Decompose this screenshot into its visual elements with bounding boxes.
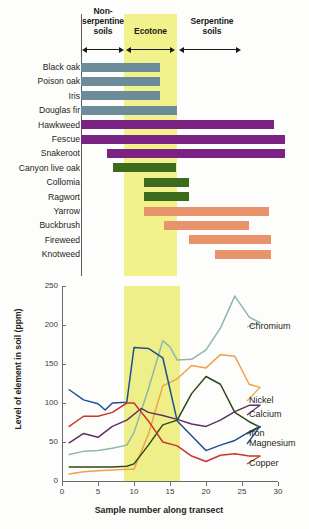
species-label: Knotweed: [4, 248, 80, 260]
species-row: Ragwort: [0, 191, 309, 203]
species-range-bar: [81, 77, 160, 86]
species-label: Fescue: [4, 133, 80, 145]
species-range-bar: [144, 178, 189, 187]
species-label: Ragwort: [4, 191, 80, 203]
species-range-bar: [81, 63, 160, 72]
series-label-nickel: Nickel: [249, 395, 274, 405]
zone-label-non-serpentine: Non-serpentinesoils: [81, 6, 125, 36]
species-row: Douglas fir: [0, 104, 309, 116]
species-range-bar: [164, 221, 249, 230]
species-row: Snakeroot: [0, 147, 309, 159]
species-label: Fireweed: [4, 234, 80, 246]
species-row: Fescue: [0, 133, 309, 145]
species-range-bar: [113, 163, 176, 172]
species-row: Knotweed: [0, 248, 309, 260]
line-series-magnesium: [69, 348, 260, 451]
series-label-magnesium: Magnesium: [249, 438, 296, 448]
series-label-copper: Copper: [249, 458, 279, 468]
species-row: Canyon live oak: [0, 162, 309, 174]
figure-root: Non-serpentinesoils Ecotone Serpentineso…: [0, 0, 309, 529]
species-range-bar: [81, 135, 285, 144]
line-series-chromium: [69, 296, 260, 454]
series-label-chromium: Chromium: [249, 321, 291, 331]
y-axis-label: Level of element in soil (ppm): [13, 299, 23, 439]
species-label: Collomia: [4, 176, 80, 188]
species-row: Poison oak: [0, 75, 309, 87]
species-distribution-chart: Non-serpentinesoils Ecotone Serpentineso…: [0, 0, 309, 276]
species-label: Douglas fir: [4, 104, 80, 116]
species-range-bar: [189, 235, 271, 244]
line-series-copper: [69, 403, 260, 462]
species-row: Black oak: [0, 61, 309, 73]
species-label: Buckbrush: [4, 219, 80, 231]
zone-label-serpentine: Serpentinesoils: [177, 16, 247, 36]
species-range-bar: [215, 250, 270, 259]
zone-label-ecotone: Ecotone: [124, 26, 177, 36]
element-levels-chart: 050100150200250 051015202530 ChromiumNic…: [0, 276, 309, 529]
species-row: Buckbrush: [0, 219, 309, 231]
species-row: Fireweed: [0, 234, 309, 246]
species-range-bar: [107, 149, 285, 158]
species-label: Iris: [4, 90, 80, 102]
species-label: Poison oak: [4, 75, 80, 87]
species-range-bar: [144, 207, 270, 216]
species-label: Yarrow: [4, 205, 80, 217]
species-row: Collomia: [0, 176, 309, 188]
x-axis-label: Sample number along transect: [34, 505, 284, 515]
series-label-calcium: Calcium: [249, 409, 282, 419]
species-range-bar: [81, 91, 160, 100]
zone-arrow-serpentine: [179, 45, 241, 54]
species-range-bar: [81, 106, 177, 115]
species-range-bar: [144, 192, 189, 201]
species-row: Iris: [0, 90, 309, 102]
species-label: Black oak: [4, 61, 80, 73]
species-label: Snakeroot: [4, 147, 80, 159]
species-row: Yarrow: [0, 205, 309, 217]
species-row: Hawkweed: [0, 119, 309, 131]
zone-arrow-ecotone: [126, 45, 175, 54]
zone-arrow-non-serpentine: [82, 45, 124, 54]
species-label: Hawkweed: [4, 119, 80, 131]
species-label: Canyon live oak: [4, 162, 80, 174]
species-range-bar: [81, 120, 274, 129]
series-label-iron: Iron: [249, 428, 265, 438]
